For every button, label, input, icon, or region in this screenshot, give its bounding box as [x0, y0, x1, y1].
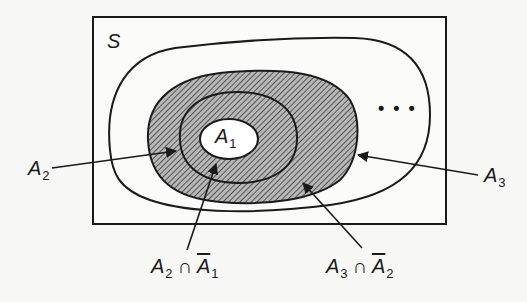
universe-label: S [107, 31, 120, 51]
intersection-symbol: ∩ [178, 255, 192, 277]
left-sub: 2 [165, 266, 172, 281]
a2-cap-not-a1-label: A2∩A1 [151, 256, 219, 280]
a3-sub: 3 [498, 175, 505, 190]
a1-base: A [215, 125, 228, 147]
set-a2-label: A2 [28, 158, 50, 182]
left-base: A [151, 255, 164, 277]
left-base: A [326, 255, 339, 277]
a1-sub: 1 [229, 136, 236, 151]
set-a3-label: A3 [484, 165, 506, 189]
a3-cap-not-a2-label: A3∩A2 [326, 256, 394, 280]
a3-base: A [484, 164, 497, 186]
right-base-complement: A [372, 255, 385, 277]
right-base-complement: A [197, 255, 210, 277]
continuation-ellipsis: • • • [378, 98, 417, 119]
right-sub: 1 [211, 266, 218, 281]
right-sub: 2 [386, 266, 393, 281]
a2-sub: 2 [42, 168, 49, 183]
diagram-canvas [0, 0, 527, 302]
set-a1-label: A1 [215, 126, 237, 150]
intersection-symbol: ∩ [353, 255, 367, 277]
universe-label-text: S [107, 30, 120, 52]
nested-sets-diagram: S A1 A2 A3 A2∩A1 A3∩A2 • • • [0, 0, 527, 302]
a2-base: A [28, 157, 41, 179]
left-sub: 3 [340, 266, 347, 281]
